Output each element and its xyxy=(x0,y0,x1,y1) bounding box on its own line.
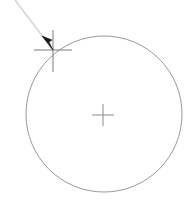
mouse-pointer-arrow-icon xyxy=(42,36,53,50)
drawing-surface[interactable] xyxy=(0,0,193,215)
center-point-marker xyxy=(92,104,114,126)
snap-point-marker xyxy=(34,30,72,72)
circle-entity[interactable] xyxy=(26,36,182,192)
cad-drawing-canvas[interactable] xyxy=(0,0,193,215)
